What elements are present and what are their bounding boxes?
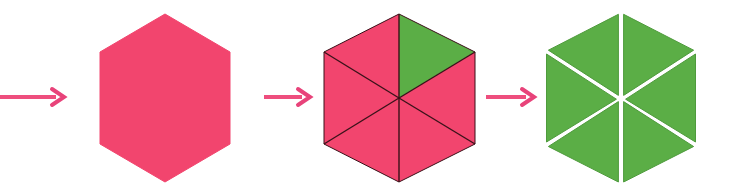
hexagon-body (100, 14, 230, 182)
arrow-3: leads to (486, 86, 538, 108)
arrow-2: leads to (264, 86, 314, 108)
triangle-group (547, 14, 696, 182)
hexagon-whole (96, 0, 236, 196)
arrow-right-icon (486, 86, 538, 108)
hexagon-sixths-all-shaded-exploded (540, 0, 704, 196)
step-1-figure: Whole hexagon (96, 0, 236, 196)
arrow-1: leads to (0, 86, 68, 108)
figure-canvas: leads to Whole hexagon leads to (0, 0, 744, 196)
arrow-right-icon (0, 86, 68, 108)
step-2-figure: Hexagon divided into six triangles, one … (320, 0, 480, 196)
hexagon-sixths-one-shaded (320, 0, 480, 196)
arrow-right-icon (264, 86, 314, 108)
step-3-figure: All six triangles shaded green and separ… (540, 0, 704, 196)
